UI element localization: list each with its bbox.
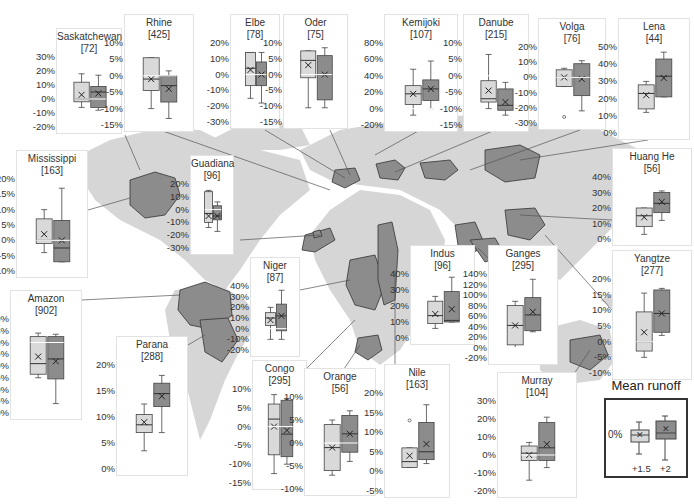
- y-tick-label: -5%: [445, 86, 462, 97]
- y-tick-label: 80%: [364, 37, 384, 48]
- y-tick-label: 15%: [96, 385, 116, 396]
- y-tick-label: -15%: [440, 119, 463, 130]
- y-tick-label: 20%: [230, 301, 250, 312]
- y-tick-label: 140%: [463, 268, 488, 279]
- box-plot: 10%5%0%-5%-10%-15%: [284, 15, 349, 130]
- box-plus-2: [419, 405, 434, 464]
- y-tick-label: 30%: [592, 187, 612, 198]
- y-tick-label: 20%: [518, 41, 538, 52]
- panel-ganges: Ganges[295]140%120%100%80%60%40%20%0%-20…: [488, 245, 558, 365]
- y-tick-label: 5%: [289, 414, 303, 425]
- y-tick-label: 10%: [477, 431, 497, 442]
- y-tick-label: -20%: [465, 352, 488, 363]
- y-tick-label: -20%: [515, 102, 538, 113]
- y-tick-label: -10%: [229, 458, 252, 469]
- box-plus-2: [154, 375, 170, 432]
- y-tick-label: -20%: [207, 100, 230, 111]
- y-tick-label: 5%: [0, 325, 10, 336]
- legend-label-1-5: +1.5: [632, 463, 651, 474]
- box-plot: 30%20%10%0%-10%-20%: [498, 373, 578, 499]
- y-tick-label: 40%: [598, 58, 618, 69]
- box-plus-2: [525, 279, 541, 332]
- y-tick-label: 5%: [369, 446, 383, 457]
- legend-zero-label: 0%: [608, 429, 623, 440]
- box-plus-1-5: [402, 419, 417, 468]
- y-tick-label: -20%: [474, 485, 497, 496]
- box-plus-1-5: [143, 58, 159, 109]
- y-tick-label: 60%: [468, 310, 488, 321]
- box-plus-2: [317, 48, 332, 108]
- y-tick-label: -10%: [515, 87, 538, 98]
- y-tick-label: 10%: [36, 79, 56, 90]
- y-tick-label: -25%: [0, 395, 10, 406]
- y-tick-label: 10%: [0, 313, 10, 324]
- y-tick-label: -10%: [440, 103, 463, 114]
- y-tick-label: 5%: [597, 320, 611, 331]
- box-plot: 20%10%0%-10%-20%-30%: [191, 156, 235, 256]
- y-tick-label: 5%: [101, 437, 115, 448]
- box-plus-1-5: [481, 54, 496, 108]
- y-tick-label: 50%: [598, 41, 618, 52]
- y-tick-label: 0%: [215, 69, 229, 80]
- y-tick-label: 20%: [170, 178, 190, 189]
- panel-murray: Murray[104]30%20%10%0%-10%-20%: [497, 372, 577, 498]
- y-tick-label: -5%: [366, 485, 383, 496]
- y-tick-label: -30%: [207, 116, 230, 127]
- y-tick-label: 0%: [597, 233, 611, 244]
- y-tick-label: -15%: [229, 477, 252, 488]
- y-tick-label: 10%: [390, 316, 410, 327]
- y-tick-label: -30%: [515, 117, 538, 128]
- y-tick-label: 20%: [364, 387, 384, 398]
- box-plus-2: [161, 71, 177, 119]
- y-tick-label: 10%: [232, 383, 252, 394]
- panel-amazon: Amazon[902]10%5%0%-5%-10%-15%-20%-25%-30…: [10, 290, 82, 420]
- y-tick-label: 100%: [463, 289, 488, 300]
- panel-huang-he: Huang He[56]40%30%20%10%0%: [612, 148, 692, 246]
- y-tick-label: 15%: [592, 289, 612, 300]
- box-plus-2: [539, 417, 555, 467]
- y-tick-label: -20%: [167, 229, 190, 240]
- y-tick-label: 0%: [448, 70, 462, 81]
- y-tick-label: 5%: [1, 219, 15, 230]
- y-tick-label: -5%: [0, 250, 16, 261]
- box-plus-1-5: [136, 404, 152, 451]
- box-plus-2: [277, 290, 287, 339]
- y-tick-label: 120%: [463, 279, 488, 290]
- y-tick-label: 10%: [443, 37, 463, 48]
- y-tick-label: 30%: [36, 51, 56, 62]
- y-tick-label: -10%: [101, 103, 124, 114]
- y-tick-label: 20%: [210, 37, 230, 48]
- y-tick-label: -20%: [361, 119, 384, 130]
- y-tick-label: -10%: [474, 467, 497, 478]
- box-plus-1-5: [36, 210, 52, 253]
- box-plus-2: [444, 277, 459, 322]
- box-plus-2: [48, 334, 64, 403]
- y-tick-label: 20%: [468, 331, 488, 342]
- y-tick-label: -5%: [265, 84, 282, 95]
- y-tick-label: 10%: [104, 37, 124, 48]
- y-tick-label: 30%: [477, 395, 497, 406]
- y-tick-label: -5%: [286, 460, 303, 471]
- y-tick-label: 30%: [230, 291, 250, 302]
- y-tick-label: 0%: [1, 234, 15, 245]
- panel-parana: Parana[288]20%15%10%5%0%: [116, 336, 188, 476]
- y-tick-label: 0%: [289, 437, 303, 448]
- y-tick-label: -10%: [227, 333, 250, 344]
- y-tick-label: -15%: [101, 119, 124, 130]
- box-plus-1-5: [301, 51, 316, 108]
- y-tick-label: 0%: [101, 463, 115, 474]
- figure-root: Saskatchewan[72]30%20%10%0%-10%-20%Rhine…: [0, 0, 694, 504]
- y-tick-label: 0%: [175, 204, 189, 215]
- box-plot: 20%15%10%5%0%-5%: [385, 365, 451, 499]
- y-tick-label: 15%: [364, 407, 384, 418]
- legend-label-2: +2: [660, 463, 671, 474]
- y-tick-label: -10%: [260, 100, 283, 111]
- y-tick-label: 0%: [603, 127, 617, 138]
- y-tick-label: 10%: [170, 191, 190, 202]
- panel-guadiana: Guadiana[96]20%10%0%-10%-20%-30%: [190, 155, 234, 255]
- box-plot: 50%40%30%20%10%0%: [619, 19, 691, 141]
- y-tick-label: 20%: [364, 86, 384, 97]
- y-tick-label: 10%: [518, 56, 538, 67]
- y-tick-label: 80%: [468, 300, 488, 311]
- y-tick-label: 20%: [36, 65, 56, 76]
